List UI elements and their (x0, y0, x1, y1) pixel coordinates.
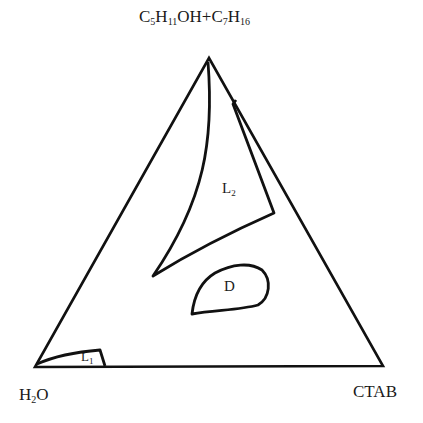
label-part: H (228, 7, 240, 26)
label-sub: 16 (240, 16, 250, 27)
region-l2-boundary (153, 62, 274, 276)
label-part: H (155, 7, 167, 26)
label-part: O (36, 385, 48, 404)
ternary-diagram (0, 0, 423, 423)
region-label-l2: L2 (222, 180, 236, 198)
label-sub: 2 (231, 188, 236, 198)
label-part: D (224, 278, 235, 294)
vertex-label-water: H2O (19, 385, 49, 405)
region-label-d: D (224, 278, 235, 295)
label-part: L (222, 180, 231, 196)
label-sub: 1 (89, 356, 94, 366)
label-part: C (139, 7, 150, 26)
region-l1-boundary (37, 350, 105, 366)
label-sub: 11 (168, 16, 178, 27)
vertex-label-ctab: CTAB (353, 382, 397, 402)
label-part: OH+C (177, 7, 222, 26)
label-part: H (19, 385, 31, 404)
region-label-l1: L1 (81, 349, 93, 366)
vertex-label-oil: C5H11OH+C7H16 (139, 7, 250, 27)
label-part: L (81, 349, 89, 364)
